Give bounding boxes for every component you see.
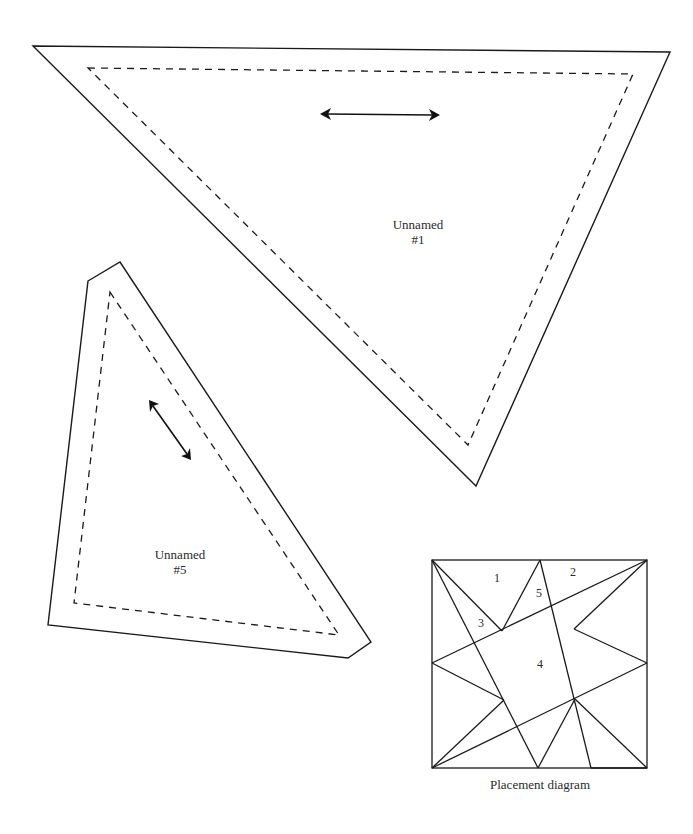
piece-number: #5 [140, 563, 220, 578]
placement-diagram-caption: Placement diagram [460, 778, 620, 793]
seam-line [74, 292, 339, 635]
piece-unnamed-1 [33, 46, 670, 486]
grain-arrow-icon [149, 400, 191, 460]
cutting-line [48, 262, 371, 658]
piece-name: Unnamed [378, 218, 458, 233]
grain-arrow-icon [320, 108, 440, 121]
diagram-number-3: 3 [473, 617, 489, 631]
piece-name: Unnamed [140, 548, 220, 563]
piece-number: #1 [378, 233, 458, 248]
pattern-sheet [0, 0, 693, 834]
diagram-number-4: 4 [532, 658, 548, 672]
piece-label-5: Unnamed #5 [140, 548, 220, 578]
cutting-line [33, 46, 670, 486]
diagram-number-5: 5 [531, 587, 547, 601]
seam-line [88, 68, 633, 445]
diagram-number-2: 2 [565, 566, 581, 580]
piece-unnamed-5 [48, 262, 371, 658]
diagram-number-1: 1 [489, 572, 505, 586]
piece-label-1: Unnamed #1 [378, 218, 458, 248]
